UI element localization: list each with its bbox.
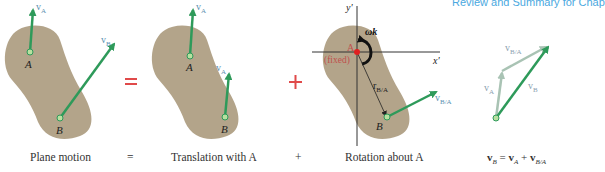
vector-vB — [496, 47, 548, 118]
point-B-dot — [222, 114, 228, 120]
caption-translation: Translation with A — [171, 151, 257, 163]
caption-plus: + — [295, 151, 302, 163]
point-B-dot — [384, 114, 390, 120]
label-vA: vA — [196, 1, 206, 15]
point-A-fixed-dot — [354, 49, 360, 55]
label-vA-at-B: vA — [216, 62, 226, 76]
label-point-A: A — [347, 42, 354, 53]
label-point-B: B — [376, 120, 383, 132]
label-vB: vB — [528, 80, 538, 94]
label-omega-k: ωk — [365, 26, 377, 37]
point-B-dot — [57, 115, 63, 121]
caption-plane-motion: Plane motion — [30, 151, 91, 163]
label-vBA: vB/A — [505, 42, 522, 56]
origin-dot — [493, 115, 499, 121]
label-vA: vA — [36, 1, 46, 15]
label-point-B: B — [56, 124, 63, 136]
label-axis-y: y' — [346, 2, 353, 13]
label-point-A: A — [25, 58, 32, 70]
rigid-body-shape — [152, 25, 239, 139]
caption-equals: = — [127, 151, 134, 163]
rigid-body-shape — [5, 25, 92, 139]
caption-rotation: Rotation about A — [345, 151, 424, 163]
panel-plane-motion — [5, 10, 114, 139]
equation-velocity: vB = vA + vB/A — [487, 151, 546, 166]
point-A-dot — [27, 49, 33, 55]
label-axis-x: x' — [433, 55, 440, 66]
label-vA: vA — [484, 82, 494, 96]
label-fixed: (fixed) — [324, 55, 350, 65]
operator-equals — [125, 78, 137, 85]
point-A-dot — [187, 53, 193, 59]
label-point-B: B — [221, 123, 228, 135]
label-rBA: rB/A — [373, 80, 388, 94]
label-vBA: vB/A — [435, 92, 452, 106]
label-vB: vB — [101, 34, 111, 48]
label-point-A: A — [186, 61, 193, 73]
operator-plus — [289, 75, 302, 89]
panel-vector-sum — [493, 47, 548, 121]
